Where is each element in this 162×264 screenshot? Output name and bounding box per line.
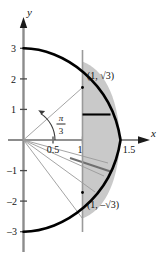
y-tick-label-2: 2: [11, 74, 16, 85]
angle-label-numerator: π: [59, 113, 64, 123]
x-axis-arrow: [138, 136, 150, 144]
y-tick-label-neg3: –3: [6, 226, 17, 237]
radial-lines-upper: [24, 88, 83, 141]
y-axis-label: y: [26, 6, 32, 18]
lower-point-label: (1, –√3): [87, 199, 119, 211]
y-axis-arrow: [20, 17, 27, 28]
angle-label-denominator: 3: [59, 126, 64, 136]
y-tick-label-neg2: –2: [6, 196, 17, 207]
x-tick-label-1: 1: [78, 144, 83, 155]
lower-point-dot: [81, 191, 84, 194]
upper-point-dot: [81, 86, 84, 89]
x-tick-label-0-5: 0.5: [47, 144, 60, 155]
y-tick-label-3: 3: [11, 43, 16, 54]
math-figure: y x 3 2 1 –1 –2 –3 0.5 1 1.5 (1, √3) (1,…: [0, 0, 162, 264]
angle-label: π 3: [57, 113, 66, 136]
y-tick-label-neg1: –1: [6, 165, 17, 176]
angle-arc-arrowhead: [38, 110, 45, 114]
angle-arc: [41, 114, 55, 140]
x-axis-label: x: [150, 127, 156, 139]
y-tick-label-1: 1: [11, 104, 16, 115]
x-tick-label-1-5: 1.5: [123, 144, 136, 155]
upper-point-label: (1, √3): [87, 70, 114, 82]
graph-canvas: y x 3 2 1 –1 –2 –3 0.5 1 1.5 (1, √3) (1,…: [0, 0, 162, 264]
